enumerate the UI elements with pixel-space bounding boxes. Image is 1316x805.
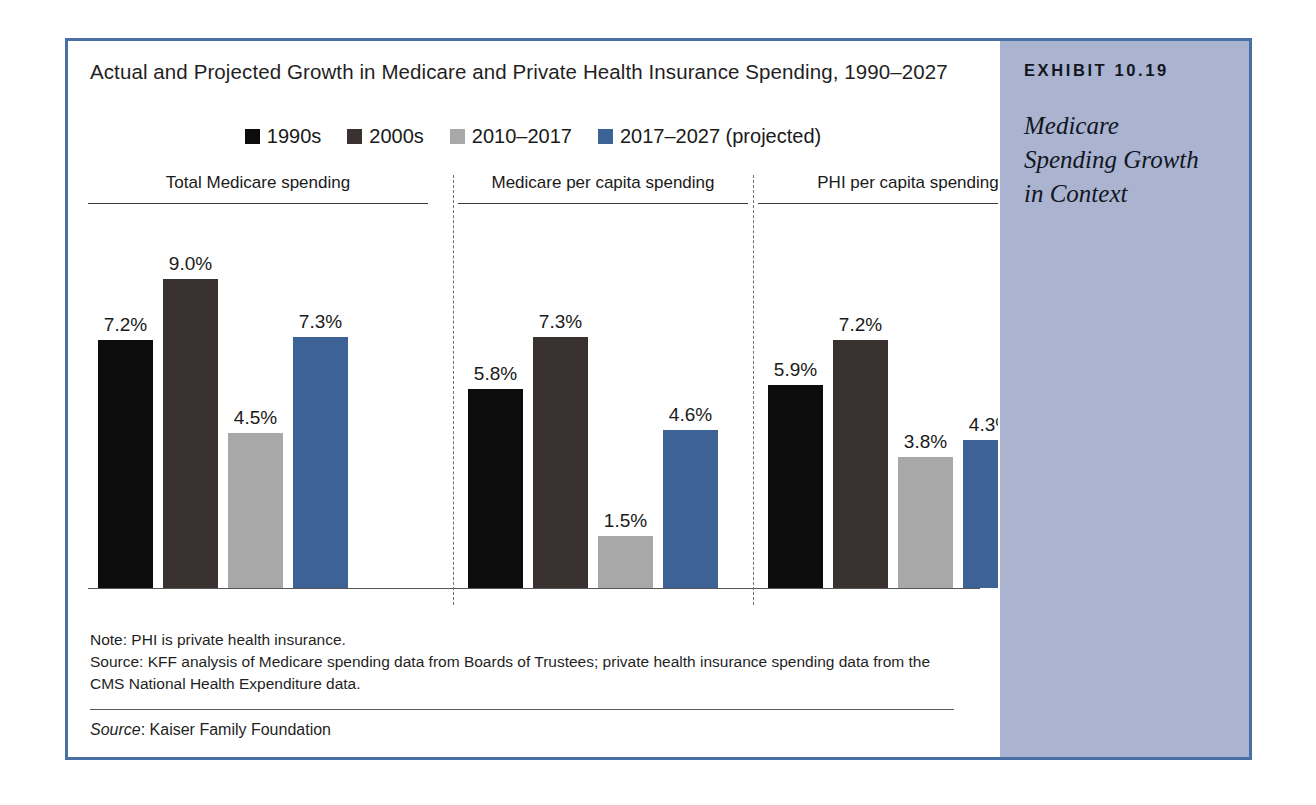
chart-legend: 1990s2000s2010–20172017–2027 (projected) [68,125,998,148]
bar-value-label: 9.0% [146,253,236,275]
bar[interactable] [898,457,953,588]
group-divider [753,175,754,605]
bar[interactable] [228,433,283,588]
source-line: Source: Kaiser Family Foundation [90,721,331,739]
bar-value-label: 1.5% [581,510,671,532]
legend-swatch-icon [598,129,613,144]
legend-swatch-icon [245,129,260,144]
legend-label: 2000s [369,125,424,148]
bar[interactable] [663,430,718,588]
bar-value-label: 7.3% [276,311,366,333]
bar[interactable] [163,279,218,588]
bar-value-label: 4.5% [211,407,301,429]
legend-label: 1990s [267,125,322,148]
bar[interactable] [768,385,823,588]
exhibit-sidebar: EXHIBIT 10.19 Medicare Spending Growth i… [998,41,1249,757]
bar[interactable] [533,337,588,588]
legend-label: 2017–2027 (projected) [620,125,821,148]
exhibit-caption: Medicare Spending Growth in Context [1024,109,1214,211]
bar[interactable] [98,340,153,588]
group-divider [453,175,454,605]
group-header-rule [88,203,428,204]
exhibit-container: Actual and Projected Growth in Medicare … [65,38,1252,760]
chart-title: Actual and Projected Growth in Medicare … [90,57,950,87]
legend-item[interactable]: 2010–2017 [450,125,572,148]
source-label: Source [90,721,141,738]
chart-notes: Note: PHI is private health insurance.So… [90,629,960,695]
chart-note: Source: KFF analysis of Medicare spendin… [90,651,960,695]
legend-swatch-icon [347,129,362,144]
bar-value-label: 7.3% [516,311,606,333]
bar[interactable] [833,340,888,588]
bar-value-label: 7.2% [816,314,906,336]
bar-value-label: 5.8% [451,363,541,385]
bar[interactable] [468,389,523,588]
bar-value-label: 4.6% [646,404,736,426]
group-header: Total Medicare spending [88,173,428,200]
legend-item[interactable]: 1990s [245,125,322,148]
legend-label: 2010–2017 [472,125,572,148]
legend-swatch-icon [450,129,465,144]
axis-baseline [88,588,980,589]
source-text: : Kaiser Family Foundation [141,721,331,738]
bar-value-label: 7.2% [81,314,171,336]
bar[interactable] [293,337,348,588]
legend-item[interactable]: 2000s [347,125,424,148]
plot-area: Total Medicare spendingMedicare per capi… [68,173,998,623]
chart-panel: Actual and Projected Growth in Medicare … [68,41,998,757]
source-divider [90,709,954,710]
group-header-rule [458,203,748,204]
chart-note: Note: PHI is private health insurance. [90,629,960,651]
legend-item[interactable]: 2017–2027 (projected) [598,125,821,148]
group-header: Medicare per capita spending [458,173,748,200]
exhibit-number: EXHIBIT 10.19 [1024,61,1169,80]
bar[interactable] [598,536,653,588]
bar-value-label: 5.9% [751,359,841,381]
